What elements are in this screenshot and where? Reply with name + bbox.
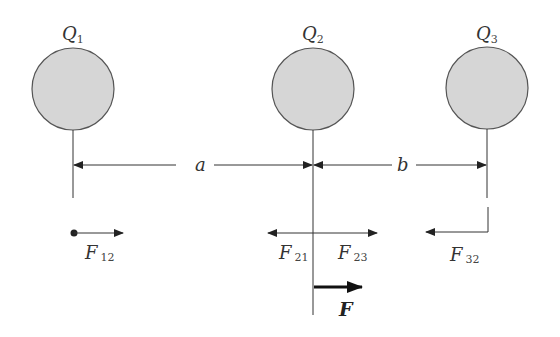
force-f32: F32 bbox=[426, 207, 488, 266]
force-f23-label: F23 bbox=[337, 242, 368, 264]
force-f32-label: F32 bbox=[449, 244, 480, 266]
sphere-q1 bbox=[32, 48, 114, 130]
distance-a-label: a bbox=[195, 154, 206, 175]
force-f23: F23 bbox=[313, 233, 377, 264]
force-f21: F21 bbox=[268, 233, 313, 264]
force-f12-label: F12 bbox=[84, 242, 115, 264]
sphere-q3 bbox=[446, 47, 528, 129]
coulomb-three-charges-diagram: Q1 Q2 Q3 a b F12 F21 F23 bbox=[0, 0, 560, 337]
sphere-q2 bbox=[272, 48, 354, 130]
label-q1: Q1 bbox=[62, 23, 84, 46]
distance-b-label: b bbox=[397, 154, 409, 175]
force-net-label: F bbox=[338, 298, 354, 320]
force-f21-label: F21 bbox=[278, 242, 309, 264]
force-f12: F12 bbox=[71, 230, 124, 265]
distance-a: a bbox=[74, 154, 312, 175]
distance-b: b bbox=[314, 154, 486, 175]
label-q2: Q2 bbox=[302, 23, 324, 46]
charge-q1: Q1 bbox=[32, 23, 114, 198]
charge-q2: Q2 bbox=[272, 23, 354, 315]
label-q3: Q3 bbox=[476, 23, 498, 46]
charge-q3: Q3 bbox=[446, 23, 528, 198]
force-net: F bbox=[314, 287, 362, 320]
